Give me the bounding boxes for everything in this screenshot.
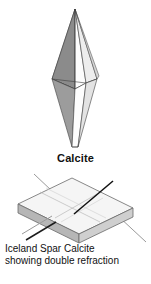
- rhombohedron-body: [18, 178, 133, 243]
- caption-line-1: Iceland Spar Calcite: [5, 243, 151, 255]
- calcite-crystal-body: [52, 9, 99, 147]
- figure-caption: Iceland Spar Calcite showing double refr…: [5, 243, 151, 267]
- calcite-label: Calcite: [0, 152, 151, 165]
- calcite-crystal-illustration: [0, 0, 151, 152]
- iceland-spar-illustration: [0, 172, 151, 247]
- caption-line-2: showing double refraction: [5, 255, 151, 267]
- figure-root: Calcite: [0, 0, 151, 284]
- facet-left-front: [52, 9, 75, 89]
- facet-lower-left: [52, 79, 75, 147]
